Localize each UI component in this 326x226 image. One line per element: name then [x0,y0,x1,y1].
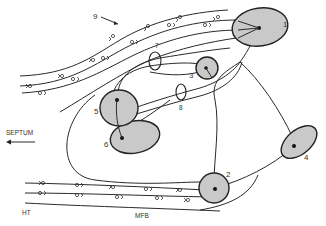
ht-label: HT [22,209,31,216]
nucleus-1-label: 1 [283,20,288,29]
septum-label: SEPTUM [6,129,33,136]
ring-8-label: 8 [179,104,183,111]
nucleus-4-label: 4 [304,153,309,162]
nucleus-6-label: 6 [104,140,109,149]
fiber-synapse-markers [26,15,220,95]
nucleus-2: 2 [199,170,231,203]
nucleus-4: 4 [275,119,323,164]
ring-8: 8 [176,84,186,111]
nucleus-3: 3 [189,57,218,80]
arrowhead-icon [114,21,118,25]
nucleus-2-label: 2 [226,170,231,179]
nucleus-1: 1 [230,4,291,49]
fiber-to-2 [214,62,240,182]
tract-9-label-group: 9 [93,12,118,25]
neural-connectivity-diagram: 9 1 3 [0,0,326,226]
arrow-left-icon [6,140,11,145]
mfb-fibers [25,181,220,211]
fiber-to-4 [240,62,293,138]
septum-indicator: SEPTUM [6,129,35,145]
mfb-label: MFB [135,212,149,219]
nucleus-5-label: 5 [94,107,99,116]
nucleus-3-label: 3 [189,71,194,80]
ring-7-label: 7 [155,42,159,49]
tract-9-label: 9 [93,12,98,21]
